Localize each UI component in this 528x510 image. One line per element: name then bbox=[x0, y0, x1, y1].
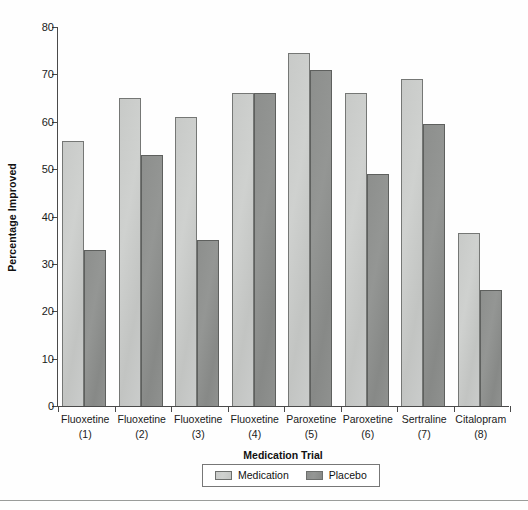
x-category-label: Sertraline(7) bbox=[396, 412, 453, 442]
x-category-number: (6) bbox=[340, 427, 397, 442]
x-category-label: Fluoxetine(3) bbox=[170, 412, 227, 442]
bar-medication bbox=[345, 93, 367, 406]
bar-medication bbox=[288, 53, 310, 406]
y-tick-label: 70 bbox=[42, 69, 54, 80]
legend-label-placebo: Placebo bbox=[329, 469, 367, 481]
x-category-number: (3) bbox=[170, 427, 227, 442]
legend-item-placebo: Placebo bbox=[306, 469, 367, 481]
plot-area: 01020304050607080 bbox=[57, 28, 509, 407]
x-category-number: (8) bbox=[453, 427, 510, 442]
bar-placebo bbox=[423, 124, 445, 406]
bar-medication bbox=[62, 141, 84, 406]
bar-medication bbox=[458, 233, 480, 406]
x-category-drug: Fluoxetine bbox=[170, 412, 227, 427]
x-category-number: (7) bbox=[396, 427, 453, 442]
x-category-label: Fluoxetine(4) bbox=[227, 412, 284, 442]
legend-swatch-placebo bbox=[306, 471, 323, 480]
y-tick-label: 50 bbox=[42, 164, 54, 175]
bar-medication bbox=[401, 79, 423, 406]
chart-legend: Medication Placebo bbox=[202, 464, 380, 487]
chart-figure: Percentage Improved 01020304050607080 Fl… bbox=[0, 0, 528, 510]
bar-group bbox=[119, 28, 163, 406]
x-category-label: Paroxetine(6) bbox=[340, 412, 397, 442]
bar-placebo bbox=[480, 290, 502, 406]
y-tick-label: 10 bbox=[42, 353, 54, 364]
x-axis-title: Medication Trial bbox=[57, 449, 509, 461]
x-category-drug: Sertraline bbox=[396, 412, 453, 427]
x-category-drug: Fluoxetine bbox=[57, 412, 114, 427]
figure-bottom-rule bbox=[0, 500, 528, 501]
x-category-number: (5) bbox=[283, 427, 340, 442]
bar-group bbox=[62, 28, 106, 406]
x-category-drug: Fluoxetine bbox=[227, 412, 284, 427]
bar-group bbox=[288, 28, 332, 406]
x-category-label: Fluoxetine(1) bbox=[57, 412, 114, 442]
bar-medication bbox=[232, 93, 254, 406]
y-tick-label: 20 bbox=[42, 306, 54, 317]
x-category-drug: Paroxetine bbox=[283, 412, 340, 427]
y-tick-label: 40 bbox=[42, 211, 54, 222]
bar-group bbox=[345, 28, 389, 406]
legend-swatch-medication bbox=[215, 471, 232, 480]
bar-group bbox=[401, 28, 445, 406]
y-tick-label: 60 bbox=[42, 116, 54, 127]
bar-medication bbox=[119, 98, 141, 406]
bar-placebo bbox=[310, 70, 332, 406]
bar-group bbox=[175, 28, 219, 406]
x-category-drug: Fluoxetine bbox=[114, 412, 171, 427]
x-category-drug: Paroxetine bbox=[340, 412, 397, 427]
bar-group bbox=[458, 28, 502, 406]
x-category-number: (1) bbox=[57, 427, 114, 442]
x-category-number: (4) bbox=[227, 427, 284, 442]
y-tick-label: 80 bbox=[42, 22, 54, 33]
legend-item-medication: Medication bbox=[215, 469, 289, 481]
x-category-label: Paroxetine(5) bbox=[283, 412, 340, 442]
bar-placebo bbox=[254, 93, 276, 406]
x-category-number: (2) bbox=[114, 427, 171, 442]
bar-group bbox=[232, 28, 276, 406]
legend-label-medication: Medication bbox=[238, 469, 289, 481]
bar-placebo bbox=[367, 174, 389, 406]
x-category-drug: Citalopram bbox=[453, 412, 510, 427]
bar-medication bbox=[175, 117, 197, 406]
y-tick-label: 0 bbox=[48, 401, 54, 412]
y-tick-label: 30 bbox=[42, 258, 54, 269]
bar-placebo bbox=[84, 250, 106, 406]
bar-placebo bbox=[197, 240, 219, 406]
bar-placebo bbox=[141, 155, 163, 406]
x-category-label: Citalopram(8) bbox=[453, 412, 510, 442]
x-category-label: Fluoxetine(2) bbox=[114, 412, 171, 442]
y-axis-title: Percentage Improved bbox=[6, 28, 20, 407]
x-tick-mark bbox=[510, 406, 511, 412]
